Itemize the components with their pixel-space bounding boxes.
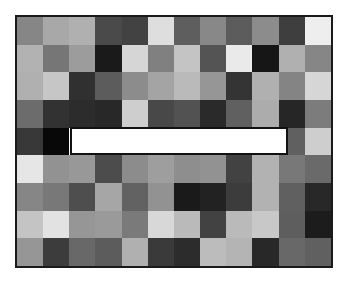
grid-cell-r4-c8 (200, 100, 226, 128)
grid-cell-r7-c7 (174, 183, 200, 211)
grid-cell-r5-c1 (17, 128, 43, 156)
grid-cell-r2-c9 (226, 45, 252, 73)
grid-cell-r1-c9 (226, 17, 252, 45)
grid-cell-r6-c9 (226, 155, 252, 183)
grid-cell-r4-c3 (69, 100, 95, 128)
grid-cell-r8-c5 (122, 211, 148, 239)
grid-cell-r7-c3 (69, 183, 95, 211)
grid-cell-r8-c3 (69, 211, 95, 239)
grid-cell-r6-c2 (43, 155, 69, 183)
grid-cell-r7-c5 (122, 183, 148, 211)
grid-cell-r5-c12 (305, 128, 331, 156)
grid-cell-r5-c2 (43, 128, 69, 156)
grid-cell-r1-c8 (200, 17, 226, 45)
grid-cell-r9-c10 (252, 238, 278, 266)
grid-cell-r6-c10 (252, 155, 278, 183)
grid-cell-r3-c3 (69, 72, 95, 100)
grid-cell-r4-c1 (17, 100, 43, 128)
grid-cell-r1-c1 (17, 17, 43, 45)
grid-cell-r1-c2 (43, 17, 69, 45)
grid-cell-r4-c9 (226, 100, 252, 128)
grid-cell-r3-c9 (226, 72, 252, 100)
grid-cell-r2-c1 (17, 45, 43, 73)
grid-cell-r4-c7 (174, 100, 200, 128)
grid-cell-r4-c4 (95, 100, 121, 128)
grid-cell-r6-c12 (305, 155, 331, 183)
grid-cell-r4-c6 (148, 100, 174, 128)
grid-cell-r9-c2 (43, 238, 69, 266)
grid-cell-r7-c9 (226, 183, 252, 211)
grid-cell-r2-c3 (69, 45, 95, 73)
grid-cell-r6-c6 (148, 155, 174, 183)
grid-cell-r8-c7 (174, 211, 200, 239)
grid-cell-r3-c2 (43, 72, 69, 100)
grid-cell-r7-c6 (148, 183, 174, 211)
grid-cell-r7-c1 (17, 183, 43, 211)
grid-cell-r3-c6 (148, 72, 174, 100)
grid-cell-r2-c6 (148, 45, 174, 73)
grid-cell-r9-c3 (69, 238, 95, 266)
grid-cell-r7-c4 (95, 183, 121, 211)
grid-cell-r9-c12 (305, 238, 331, 266)
grid-cell-r7-c12 (305, 183, 331, 211)
grid-cell-r4-c12 (305, 100, 331, 128)
grid-cell-r1-c6 (148, 17, 174, 45)
grid-cell-r2-c5 (122, 45, 148, 73)
grid-cell-r7-c2 (43, 183, 69, 211)
grid-cell-r1-c11 (279, 17, 305, 45)
grid-cell-r2-c2 (43, 45, 69, 73)
grid-cell-r6-c1 (17, 155, 43, 183)
grid-cell-r1-c3 (69, 17, 95, 45)
figure-root (0, 0, 349, 283)
grid-cell-r7-c11 (279, 183, 305, 211)
grid-cell-r3-c5 (122, 72, 148, 100)
grid-cell-r4-c11 (279, 100, 305, 128)
grid-cell-r1-c10 (252, 17, 278, 45)
grid-cell-r8-c11 (279, 211, 305, 239)
grid-cell-r6-c5 (122, 155, 148, 183)
grid-cell-r8-c8 (200, 211, 226, 239)
grid-cell-r1-c7 (174, 17, 200, 45)
grid-cell-r8-c6 (148, 211, 174, 239)
grid-cell-r8-c9 (226, 211, 252, 239)
grid-cell-r3-c11 (279, 72, 305, 100)
grid-cell-r3-c4 (95, 72, 121, 100)
grid-cell-r3-c10 (252, 72, 278, 100)
grid-cell-r4-c10 (252, 100, 278, 128)
grid-cell-r2-c7 (174, 45, 200, 73)
grid-cell-r3-c12 (305, 72, 331, 100)
grid-cell-r4-c2 (43, 100, 69, 128)
grid-cell-r6-c3 (69, 155, 95, 183)
grid-cell-r2-c4 (95, 45, 121, 73)
grid-cell-r9-c9 (226, 238, 252, 266)
grid-cell-r6-c11 (279, 155, 305, 183)
grid-cell-r9-c11 (279, 238, 305, 266)
grid-cell-r1-c4 (95, 17, 121, 45)
grid-cell-r2-c10 (252, 45, 278, 73)
grid-cell-r6-c7 (174, 155, 200, 183)
grid-cell-r9-c4 (95, 238, 121, 266)
grid-cell-r8-c2 (43, 211, 69, 239)
grid-cell-r8-c10 (252, 211, 278, 239)
grid-cell-r1-c12 (305, 17, 331, 45)
grid-cell-r8-c12 (305, 211, 331, 239)
grid-cell-r9-c6 (148, 238, 174, 266)
grid-cell-r9-c8 (200, 238, 226, 266)
white-callout-bar (70, 127, 288, 155)
grid-cell-r3-c8 (200, 72, 226, 100)
grid-cell-r9-c7 (174, 238, 200, 266)
grid-cell-r7-c10 (252, 183, 278, 211)
grid-cell-r6-c8 (200, 155, 226, 183)
grid-cell-r2-c8 (200, 45, 226, 73)
grid-cell-r9-c1 (17, 238, 43, 266)
grid-cell-r6-c4 (95, 155, 121, 183)
grid-cell-r8-c1 (17, 211, 43, 239)
grid-cell-r7-c8 (200, 183, 226, 211)
grid-cell-r2-c11 (279, 45, 305, 73)
grid-cell-r1-c5 (122, 17, 148, 45)
grid-cell-r3-c7 (174, 72, 200, 100)
grid-cell-r2-c12 (305, 45, 331, 73)
grid-cell-r3-c1 (17, 72, 43, 100)
grid-cell-r8-c4 (95, 211, 121, 239)
grid-cell-r4-c5 (122, 100, 148, 128)
